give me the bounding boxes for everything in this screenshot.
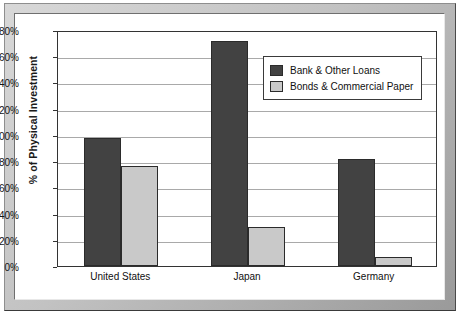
- bar: [375, 257, 412, 266]
- legend-swatch-bonds-paper: [270, 81, 283, 92]
- bar-group: [84, 32, 158, 266]
- x-axis-category-label: United States: [90, 271, 150, 282]
- bar: [248, 227, 285, 266]
- y-axis-tick-label: 0%: [0, 262, 19, 273]
- y-axis-tick-mark: [53, 267, 57, 268]
- bar: [338, 159, 375, 267]
- y-axis-tick-label: 20%: [0, 235, 19, 246]
- legend-swatch-bank-loans: [270, 65, 283, 76]
- legend-label-bonds-paper: Bonds & Commercial Paper: [290, 81, 413, 92]
- x-axis-category-label: Germany: [353, 271, 394, 282]
- chart-frame-outer: % of Physical Investment 180%160%140%120…: [4, 3, 456, 311]
- x-axis-category-label: Japan: [233, 271, 260, 282]
- legend-item: Bank & Other Loans: [270, 62, 413, 78]
- y-axis-tick-label: 180%: [0, 26, 19, 37]
- y-axis-tick-label: 100%: [0, 130, 19, 141]
- y-axis-tick-label: 140%: [0, 78, 19, 89]
- bar: [121, 166, 158, 266]
- legend-item: Bonds & Commercial Paper: [270, 78, 413, 94]
- y-axis-tick-label: 80%: [0, 157, 19, 168]
- chart-frame-inner: % of Physical Investment 180%160%140%120…: [14, 13, 445, 300]
- y-axis-tick-label: 120%: [0, 104, 19, 115]
- bar: [211, 41, 248, 267]
- bar-chart: % of Physical Investment 180%160%140%120…: [15, 14, 444, 299]
- y-axis-tick-label: 40%: [0, 209, 19, 220]
- chart-legend: Bank & Other Loans Bonds & Commercial Pa…: [263, 56, 422, 100]
- legend-label-bank-loans: Bank & Other Loans: [290, 65, 380, 76]
- bar: [84, 138, 121, 266]
- y-axis-tick-label: 160%: [0, 52, 19, 63]
- y-axis-tick-label: 60%: [0, 183, 19, 194]
- y-axis-title: % of Physical Investment: [27, 10, 39, 230]
